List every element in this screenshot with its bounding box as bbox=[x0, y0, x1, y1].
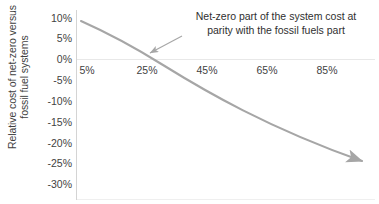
annotation-leader-line bbox=[150, 36, 182, 53]
annotation-line-2: parity with the fossil fuels part bbox=[176, 23, 376, 37]
annotation-line-1: Net-zero part of the system cost at bbox=[176, 9, 376, 23]
annotation-parity-callout: Net-zero part of the system cost at pari… bbox=[176, 9, 376, 37]
y-tick-label-m5: -5% bbox=[32, 74, 76, 86]
x-tick-label-45: 45% bbox=[196, 64, 217, 76]
x-tick-label-5: 5% bbox=[79, 64, 94, 76]
x-tick-label-25: 25% bbox=[136, 64, 157, 76]
y-axis-title-line-2: fossil fuel systems bbox=[18, 35, 30, 118]
x-tick-label-65: 65% bbox=[256, 64, 277, 76]
y-tick-label-m20: -20% bbox=[32, 137, 76, 149]
y-tick-label-0: 0% bbox=[32, 53, 76, 65]
series-line-relative-cost bbox=[81, 21, 362, 161]
y-tick-label-m30: -30% bbox=[32, 178, 76, 190]
y-tick-label-m15: -15% bbox=[32, 116, 76, 128]
y-axis-title: Relative cost of net-zero versus fossil … bbox=[0, 0, 36, 177]
x-tick-label-85: 85% bbox=[316, 64, 337, 76]
chart-container: Relative cost of net-zero versus fossil … bbox=[0, 0, 379, 204]
zero-gridline bbox=[77, 59, 375, 60]
y-tick-label-10: 10% bbox=[32, 12, 76, 24]
plot-bottom-border bbox=[77, 199, 375, 200]
y-tick-label-m25: -25% bbox=[32, 157, 76, 169]
y-tick-label-m10: -10% bbox=[32, 95, 76, 107]
y-axis-line bbox=[76, 10, 77, 200]
y-tick-label-5: 5% bbox=[32, 32, 76, 44]
y-axis-title-line-1: Relative cost of net-zero versus bbox=[6, 5, 18, 149]
